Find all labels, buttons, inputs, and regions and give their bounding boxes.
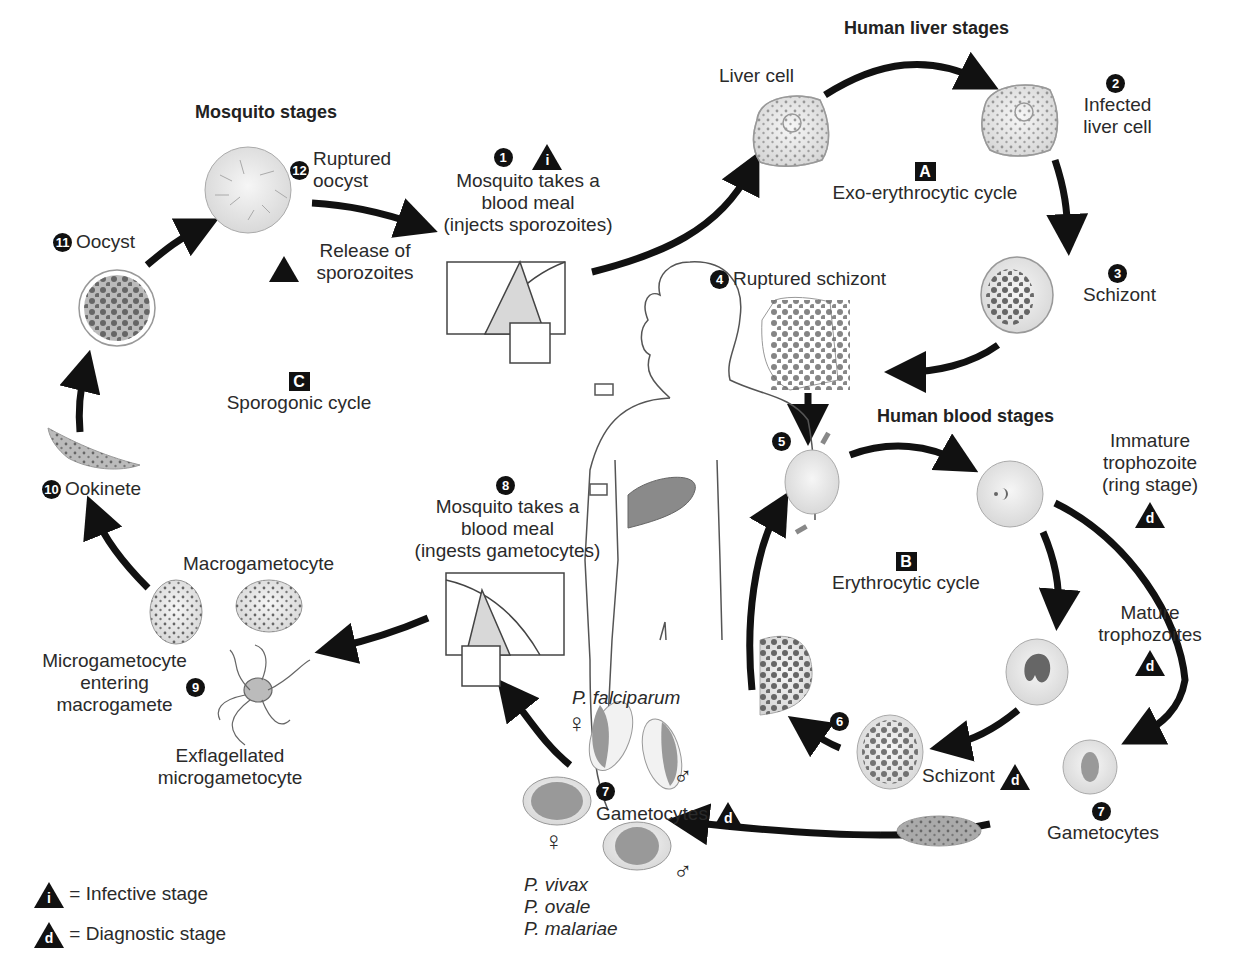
infective-stage-icon: i (34, 882, 64, 908)
stage-3: 3 Schizont (1072, 262, 1167, 306)
release-sporozoites-label: Release ofsporozoites (305, 240, 425, 284)
stage-9-number: 9 (186, 678, 205, 697)
exflagellated-label: Exflagellatedmicrogametocyte (135, 745, 325, 789)
cycle-b-name: Erythrocytic cycle (826, 572, 986, 594)
stage-10-number: 10 (42, 480, 61, 499)
arrow-ring-to-mature (1043, 532, 1058, 610)
bite-box-8 (446, 573, 564, 686)
other-species-label: P. vivaxP. ovaleP. malariae (524, 874, 618, 940)
arrow-center-to-meal8 (510, 695, 570, 765)
cycle-b: B Erythrocytic cycle (826, 550, 986, 594)
stage-11-number: 11 (53, 233, 72, 252)
cycle-b-badge: B (896, 552, 917, 571)
stage-8: 8 Mosquito takes ablood meal(ingests gam… (400, 474, 615, 562)
infective-stage-icon: i (532, 144, 562, 170)
male-symbol: ♂ (673, 765, 693, 787)
stage-5-number: 5 (772, 432, 791, 451)
stage-9: 9 (186, 676, 209, 698)
diagnostic-stage-icon: d (1000, 764, 1030, 790)
stage-2: 2 Infected liver cell (1070, 72, 1165, 138)
immature-trophozoite-label: Immaturetrophozoite(ring stage) d (1085, 430, 1215, 528)
stage-12-number: 12 (290, 161, 309, 180)
stage-11: 11Oocyst (53, 231, 135, 253)
cycle-a-name: Exo-erythrocytic cycle (810, 182, 1040, 204)
ruptured-oocyst (205, 147, 291, 233)
arrow-infected-to-schizont (1055, 160, 1068, 235)
cycle-a: A Exo-erythrocytic cycle (810, 160, 1040, 204)
diagnostic-stage-icon: d (713, 802, 743, 828)
cycle-c-badge: C (289, 372, 310, 391)
diagnostic-stage-icon: d (1135, 502, 1165, 528)
liver-organ (628, 477, 695, 528)
bite-box-1 (447, 262, 565, 363)
arrow-mature-to-schizont (950, 710, 1018, 745)
legend-diagnostic: d = Diagnostic stage (34, 922, 226, 948)
arrow-liver-to-infected (825, 64, 980, 95)
stage-4: 4Ruptured schizont (710, 268, 886, 290)
cycle-c: C Sporogonic cycle (214, 370, 384, 414)
stage-3-number: 3 (1108, 264, 1127, 283)
stage-12: 12 Rupturedoocyst (290, 148, 391, 192)
stage-1: 1 i Mosquito takes a blood meal (injects… (428, 144, 628, 236)
stage-4-number: 4 (710, 270, 729, 289)
stage-2-number: 2 (1106, 74, 1125, 93)
ruptured-schizont (762, 297, 850, 390)
micro-entering-label: Microgametocyteenteringmacrogamete (22, 650, 207, 716)
stage-8-number: 8 (496, 476, 515, 495)
exflagellated-microgametocyte (218, 645, 310, 745)
stage-7-number: 7 (1092, 802, 1111, 821)
infective-stage-icon (269, 256, 299, 282)
male-symbol: ♂ (673, 860, 693, 882)
cycle-a-badge: A (915, 162, 936, 181)
diagnostic-stage-icon: d (1135, 650, 1165, 676)
stage-5: 5 (772, 430, 795, 452)
liver-cell-label: Liver cell (719, 65, 794, 87)
arrow-ookinete-to-oocyst (79, 370, 85, 432)
arrow-oocyst-to-ruptured (147, 228, 200, 265)
arrow-ruptured-to-meal (312, 203, 418, 225)
arrow-schizont-to-ruptured (905, 345, 998, 372)
mature-trophozoites-label: Maturetrophozoites d (1090, 602, 1210, 676)
blood-schizont-label: Schizont d (922, 764, 1030, 790)
stage-10: 10Ookinete (42, 478, 141, 500)
rbc-5 (785, 450, 839, 514)
arrow-rbc-to-ring (850, 446, 960, 462)
stage-1-number: 1 (494, 148, 513, 167)
diagnostic-stage-icon: d (34, 922, 64, 948)
stage-7-center: 7 Gametocytes d (596, 780, 743, 828)
ring-stage-rbc (977, 461, 1043, 527)
header-liver-stages: Human liver stages (844, 18, 1009, 39)
arrow-macro-to-ookinete (95, 515, 148, 588)
female-symbol: ♀ (544, 830, 564, 852)
stage-6: 6 (830, 710, 853, 732)
cycle-c-name: Sporogonic cycle (214, 392, 384, 414)
stage-6-number: 6 (830, 712, 849, 731)
header-blood-stages: Human blood stages (877, 406, 1054, 427)
stage-7-right: 7 Gametocytes (1043, 800, 1163, 844)
header-mosquito-stages: Mosquito stages (195, 102, 337, 123)
falciparum-label: P. falciparum (572, 687, 680, 709)
legend-infective: i = Infective stage (34, 882, 208, 908)
macrogametocyte-label: Macrogametocyte (183, 553, 334, 575)
female-symbol: ♀ (567, 712, 587, 734)
arrow-meal8-to-micro (335, 618, 428, 648)
